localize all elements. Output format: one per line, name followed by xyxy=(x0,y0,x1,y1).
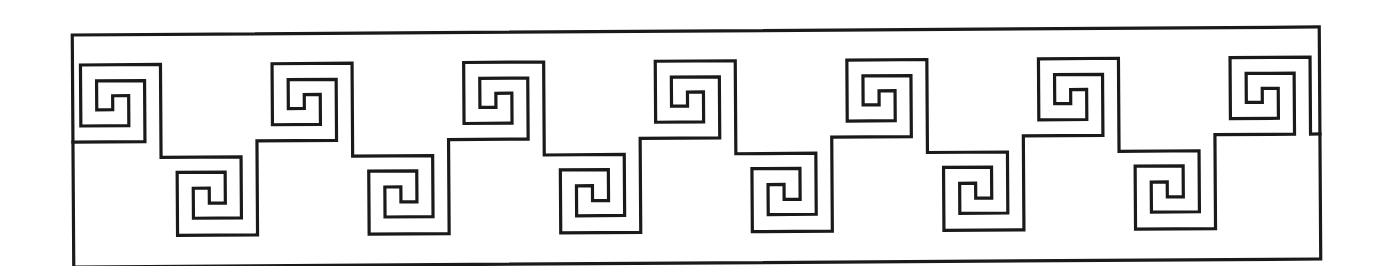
meander-line xyxy=(72,57,1320,236)
meander-svg xyxy=(0,0,1385,266)
greek-key-figure: Greek key (meander) border pattern xyxy=(0,0,1385,266)
tilted-scan-group xyxy=(72,27,1320,266)
border-frame xyxy=(72,27,1320,266)
